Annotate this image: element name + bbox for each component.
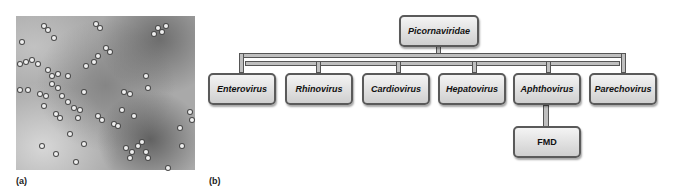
node-fmd: FMD bbox=[513, 126, 581, 158]
connector-drop-aphthovirus bbox=[546, 61, 551, 73]
node-cardiovirus: Cardiovirus bbox=[362, 73, 430, 105]
panel-b-label: (b) bbox=[209, 176, 221, 186]
connector-drop-cardiovirus bbox=[396, 61, 401, 73]
node-parechovirus: Parechovirus bbox=[589, 73, 657, 105]
node-hepatovirus: Hepatovirus bbox=[438, 73, 506, 105]
electron-micrograph-image bbox=[16, 16, 195, 170]
connector-drop-hepatovirus bbox=[472, 61, 477, 73]
node-enterovirus: Enterovirus bbox=[208, 73, 276, 105]
connector-outer-left-drop bbox=[239, 53, 244, 73]
connector-outer-right-drop bbox=[621, 53, 626, 73]
connector-aphthovirus-fmd bbox=[543, 105, 549, 127]
node-picornaviridae: Picornaviridae bbox=[399, 15, 479, 47]
connector-inner-bus bbox=[245, 61, 620, 66]
connector-outer-bus bbox=[239, 53, 626, 58]
node-aphthovirus: Aphthovirus bbox=[513, 73, 581, 105]
connector-drop-rhinovirus bbox=[316, 61, 321, 73]
panel-a-label: (a) bbox=[16, 176, 27, 186]
node-rhinovirus: Rhinovirus bbox=[285, 73, 353, 105]
